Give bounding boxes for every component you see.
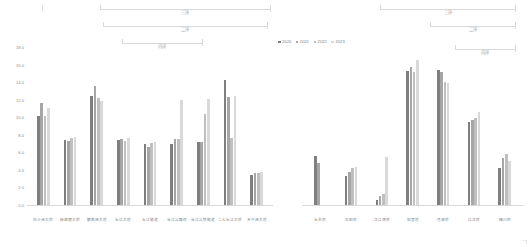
x-axis-label: 长丰桥: [314, 219, 326, 223]
bar-group: [397, 47, 428, 205]
bar-2020[interactable]: [498, 168, 501, 205]
bar-2022[interactable]: [70, 138, 73, 205]
bar-2020[interactable]: [117, 140, 120, 205]
bar-2020[interactable]: [224, 80, 227, 205]
bar-2021[interactable]: [348, 172, 351, 205]
bar-2022[interactable]: [413, 72, 416, 205]
bar-2020[interactable]: [376, 200, 379, 205]
bar-2021[interactable]: [147, 147, 150, 205]
bar-2020[interactable]: [170, 144, 173, 205]
legend-label: 2022: [318, 40, 327, 44]
bar-2023[interactable]: [207, 99, 210, 205]
x-axis-label: 古田桥: [345, 219, 357, 223]
x-axis-tickmark: [83, 205, 84, 206]
x-axis-tickmark: [190, 205, 191, 206]
bar-2021[interactable]: [67, 141, 70, 205]
bracket-left-neihuan: 内环: [122, 39, 202, 51]
bar-2021[interactable]: [227, 97, 230, 205]
legend-item-2022[interactable]: 2022: [314, 40, 327, 44]
bar-2021[interactable]: [471, 120, 474, 205]
bar-2020[interactable]: [468, 122, 471, 205]
x-axis-tickmark: [459, 205, 460, 206]
y-axis-tick-6.0: 6.0: [4, 150, 24, 155]
legend-item-2020[interactable]: 2020: [278, 40, 291, 44]
bar-2022[interactable]: [505, 154, 508, 205]
bar-2023[interactable]: [154, 142, 157, 205]
bar-2023[interactable]: [260, 172, 263, 205]
bar-2022[interactable]: [382, 194, 385, 205]
bar-2022[interactable]: [124, 141, 127, 205]
bar-2023[interactable]: [47, 108, 50, 205]
legend-item-2023[interactable]: 2023: [331, 40, 344, 44]
bar-2020[interactable]: [64, 140, 67, 205]
bracket-right-sanhuan: 三环: [380, 5, 515, 17]
bar-2023[interactable]: [355, 167, 358, 205]
bar-2021[interactable]: [254, 173, 257, 205]
bar-2021[interactable]: [94, 86, 97, 205]
bar-2021[interactable]: [440, 72, 443, 205]
bar-2020[interactable]: [144, 144, 147, 205]
bar-2023[interactable]: [234, 96, 237, 205]
x-axis-label: 白沙洲大桥: [33, 219, 53, 223]
bar-2021[interactable]: [379, 196, 382, 205]
x-axis-label: 长江公铁隧道: [191, 219, 215, 223]
bar-group: [459, 47, 490, 205]
chart-canvas: 2020202120222023 18.016.014.012.010.08.0…: [0, 0, 529, 247]
bar-2020[interactable]: [37, 116, 40, 205]
bar-2021[interactable]: [174, 139, 177, 205]
x-axis-label: 汉江湾桥: [374, 219, 390, 223]
bar-2022[interactable]: [204, 114, 207, 205]
bar-group: [190, 47, 217, 205]
bar-2021[interactable]: [120, 139, 123, 205]
x-axis-tickmark: [217, 205, 218, 206]
bar-group: [489, 47, 520, 205]
bar-2020[interactable]: [197, 142, 200, 205]
bar-2022[interactable]: [97, 98, 100, 205]
bar-2021[interactable]: [40, 103, 43, 205]
bar-2020[interactable]: [406, 71, 409, 205]
bar-2023[interactable]: [478, 112, 481, 205]
x-axis-tickmark: [243, 205, 244, 206]
x-axis-label: 江汉桥: [468, 219, 480, 223]
bar-2022[interactable]: [44, 116, 47, 205]
bar-group: [336, 47, 367, 205]
bar-2020[interactable]: [314, 156, 317, 205]
bar-2023[interactable]: [74, 137, 77, 205]
bar-2021[interactable]: [502, 158, 505, 205]
bar-2022[interactable]: [177, 139, 180, 205]
bar-2023[interactable]: [127, 138, 130, 205]
bracket-label: 内环: [455, 50, 515, 55]
x-axis-label: 鹦鹉洲大桥: [87, 219, 107, 223]
bar-2023[interactable]: [100, 101, 103, 205]
y-axis-tick-4.0: 4.0: [4, 167, 24, 172]
bar-2021[interactable]: [317, 163, 320, 205]
bar-2023[interactable]: [385, 157, 388, 205]
bar-2022[interactable]: [230, 138, 233, 205]
bar-2020[interactable]: [345, 176, 348, 205]
bar-2022[interactable]: [474, 118, 477, 205]
bar-2022[interactable]: [257, 173, 260, 205]
x-axis-tickmark: [137, 205, 138, 206]
bar-2020[interactable]: [90, 96, 93, 205]
bar-2021[interactable]: [410, 67, 413, 205]
x-axis-tickmark: [110, 205, 111, 206]
bar-2023[interactable]: [508, 161, 511, 205]
bar-group: [57, 47, 84, 205]
bar-2023[interactable]: [447, 83, 450, 205]
bar-2020[interactable]: [437, 70, 440, 205]
y-axis-tick-12.0: 12.0: [4, 97, 24, 102]
bar-2022[interactable]: [150, 143, 153, 205]
left-axis-baseline: [27, 205, 273, 206]
bar-2022[interactable]: [444, 82, 447, 205]
legend-swatch-icon: [296, 41, 299, 44]
legend-swatch-icon: [331, 41, 334, 44]
bracket-left-erhuan: 二环: [103, 22, 267, 34]
bar-2020[interactable]: [250, 175, 253, 205]
y-axis-tick-0.0: 0.0: [4, 203, 24, 208]
bar-2022[interactable]: [351, 168, 354, 205]
bar-2023[interactable]: [180, 100, 183, 205]
bar-2021[interactable]: [200, 142, 203, 205]
bar-2023[interactable]: [416, 60, 419, 205]
bar-group: [83, 47, 110, 205]
legend-item-2021[interactable]: 2021: [296, 40, 309, 44]
